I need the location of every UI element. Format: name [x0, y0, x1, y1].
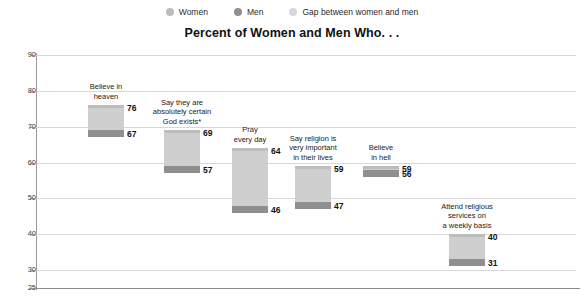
gridline-30 — [36, 270, 576, 271]
legend-label: Men — [247, 8, 264, 17]
bar-segment-men — [449, 259, 485, 266]
y-tick-mark-30 — [30, 270, 35, 271]
bar-segment-men — [88, 130, 124, 137]
bar-group[interactable] — [88, 105, 124, 137]
y-axis: 2530405060708090 — [0, 0, 36, 305]
bar-category-label: Attend religiousservices ona weekly basi… — [412, 202, 522, 231]
legend-label: Gap between women and men — [302, 8, 418, 17]
legend-item-1[interactable]: Men — [234, 8, 264, 17]
chart-legend: WomenMenGap between women and men — [0, 8, 584, 17]
y-tick-mark-70 — [30, 127, 35, 128]
bar-group[interactable] — [363, 166, 399, 177]
bar-category-label-line: Believe — [326, 143, 436, 153]
bar-segment-men — [164, 166, 200, 173]
bar-segment-men — [232, 206, 268, 213]
y-tick-mark-80 — [30, 91, 35, 92]
bar-category-label-line: Say religion is — [258, 134, 368, 144]
legend-dot-icon — [289, 8, 297, 16]
bar-segment-women — [449, 234, 485, 237]
legend-item-0[interactable]: Women — [166, 8, 208, 17]
bar-value-men: 67 — [127, 130, 136, 139]
bar-category-label-line: Attend religious — [412, 202, 522, 212]
y-tick-mark-40 — [30, 234, 35, 235]
bar-segment-gap — [449, 234, 485, 259]
chart-container: WomenMenGap between women and men Percen… — [0, 0, 584, 305]
legend-item-2[interactable]: Gap between women and men — [289, 8, 418, 17]
bar-category-label-line: absolutely certain — [127, 107, 237, 117]
gridline-60 — [36, 163, 576, 164]
legend-dot-icon — [234, 8, 242, 16]
bar-segment-women — [295, 166, 331, 169]
y-tick-mark-25 — [30, 288, 35, 289]
gridline-90 — [36, 55, 576, 56]
bar-segment-men — [295, 202, 331, 209]
plot-area: 7667Believe inheaven6957Say they areabso… — [36, 55, 576, 289]
bar-segment-gap — [295, 166, 331, 202]
bar-value-men: 57 — [203, 166, 212, 175]
bar-value-women: 59 — [334, 165, 343, 174]
bar-segment-men — [363, 170, 399, 177]
bar-category-label-line: a weekly basis — [412, 221, 522, 231]
bar-category-label: Say they areabsolutely certainGod exists… — [127, 98, 237, 127]
chart-title: Percent of Women and Men Who. . . — [0, 26, 584, 40]
bar-value-men: 56 — [402, 170, 411, 179]
bar-segment-women — [88, 105, 124, 108]
bar-category-label-line: in hell — [326, 153, 436, 163]
bar-group[interactable] — [449, 234, 485, 266]
bar-value-men: 31 — [488, 259, 497, 268]
bar-category-label: Believein hell — [326, 143, 436, 162]
bar-value-women: 40 — [488, 233, 497, 242]
bar-value-men: 47 — [334, 202, 343, 211]
legend-dot-icon — [166, 8, 174, 16]
y-tick-mark-90 — [30, 55, 35, 56]
bar-group[interactable] — [295, 166, 331, 209]
bar-value-men: 46 — [271, 206, 280, 215]
bar-segment-women — [363, 166, 399, 169]
bar-category-label-line: Believe in — [51, 82, 161, 92]
y-tick-mark-60 — [30, 163, 35, 164]
y-tick-mark-50 — [30, 198, 35, 199]
legend-label: Women — [179, 8, 208, 17]
bar-segment-gap — [88, 105, 124, 130]
bar-category-label-line: services on — [412, 211, 522, 221]
bar-category-label-line: Say they are — [127, 98, 237, 108]
